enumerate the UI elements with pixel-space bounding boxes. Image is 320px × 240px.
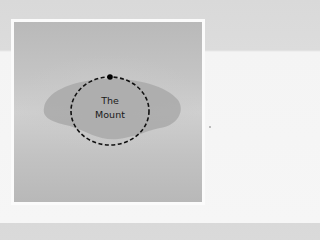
- mount-label: The Mount: [84, 94, 136, 122]
- mount-label-line2: Mount: [84, 108, 136, 122]
- point-marker: [107, 74, 113, 80]
- stray-mark: [209, 126, 211, 128]
- mount-label-line1: The: [84, 94, 136, 108]
